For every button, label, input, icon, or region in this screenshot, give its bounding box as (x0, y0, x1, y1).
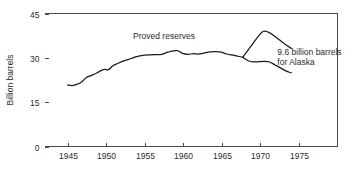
y-axis-ticks (45, 15, 49, 148)
series-line (68, 51, 243, 86)
x-axis-ticks (69, 143, 300, 147)
x-tick-label: 1975 (290, 151, 309, 161)
x-tick-label: 1965 (213, 151, 232, 161)
x-tick-label: 1945 (59, 151, 78, 161)
alaska-label-line2: for Alaska (277, 57, 315, 67)
y-tick-label: 30 (30, 54, 40, 64)
proved-reserves-label: Proved reserves (133, 31, 195, 41)
y-tick-label: 45 (30, 10, 40, 20)
x-tick-label: 1960 (174, 151, 193, 161)
y-tick-label: 15 (30, 98, 40, 108)
chart-annotations: Proved reserves9.6 billion barrelsfor Al… (133, 31, 342, 68)
y-axis-tick-labels: 0153045 (30, 10, 40, 153)
x-axis-tick-labels: 1945195019551960196519701975 (59, 151, 309, 161)
alaska-label-line1: 9.6 billion barrels (277, 47, 341, 57)
x-tick-label: 1950 (97, 151, 116, 161)
x-tick-label: 1955 (136, 151, 155, 161)
chart-screenshot: 0153045 1945195019551960196519701975 Bil… (0, 0, 353, 172)
y-axis-title: Billion barrels (5, 54, 15, 105)
reserves-line-chart: 0153045 1945195019551960196519701975 Bil… (0, 0, 353, 172)
y-tick-label: 0 (35, 143, 40, 153)
x-tick-label: 1970 (251, 151, 270, 161)
